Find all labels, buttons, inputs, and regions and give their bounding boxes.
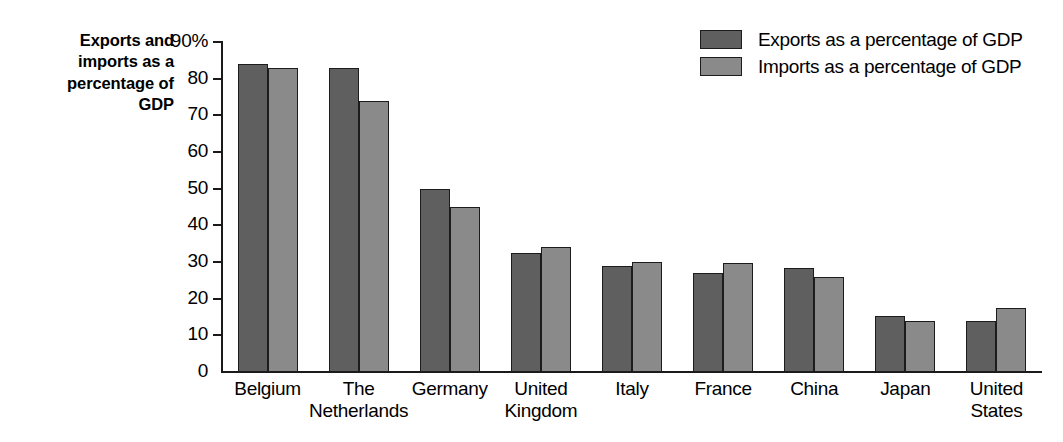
bar-exports [602, 266, 632, 372]
legend-item: Exports as a percentage of GDP [700, 26, 1023, 53]
bar-group [420, 42, 480, 372]
bar-group [602, 42, 662, 372]
axis-title-line-4: GDP [22, 94, 174, 115]
y-axis-tick-label: 90% [171, 31, 208, 50]
y-axis-tick-label: 0 [198, 361, 208, 380]
bar-imports [905, 321, 935, 372]
bar-exports [420, 189, 450, 372]
y-axis-tick-label: 30 [187, 251, 208, 270]
y-axis-tick-label: 40 [187, 214, 208, 233]
legend-item-label: Exports as a percentage of GDP [758, 30, 1023, 49]
bar-imports [996, 308, 1026, 372]
y-axis-tick-label: 50 [187, 178, 208, 197]
bar-group [511, 42, 571, 372]
y-axis-tick-label: 80 [187, 68, 208, 87]
bar-group [966, 42, 1026, 372]
y-axis-tick-mark [213, 78, 222, 80]
y-axis-tick-label: 60 [187, 141, 208, 160]
bar-imports [268, 68, 298, 372]
bar-imports [541, 247, 571, 372]
bar-group [238, 42, 298, 372]
y-axis-tick-mark [213, 334, 222, 336]
bar-exports [511, 253, 541, 372]
y-axis-tick-mark [213, 41, 222, 43]
x-axis-category-label: United States [939, 378, 1054, 422]
y-axis-tick-mark [213, 261, 222, 263]
bar-exports [329, 68, 359, 372]
bar-imports [723, 263, 753, 372]
legend-swatch-exports [700, 30, 742, 49]
y-axis-tick-label: 10 [187, 324, 208, 343]
axis-title-line-3: percentage of [22, 73, 174, 94]
y-axis-tick-mark [213, 114, 222, 116]
chart-axis-title: Exports and imports as a percentage of G… [22, 30, 174, 116]
bar-exports [693, 273, 723, 372]
y-axis-tick-label: 20 [187, 288, 208, 307]
y-axis-tick-mark [213, 224, 222, 226]
bar-group [784, 42, 844, 372]
bar-imports [814, 277, 844, 372]
axis-title-line-1: Exports and [22, 30, 174, 51]
bar-exports [784, 268, 814, 373]
y-axis-tick-label: 70 [187, 104, 208, 123]
y-axis-tick-mark [213, 298, 222, 300]
legend-item: Imports as a percentage of GDP [700, 53, 1023, 80]
plot-area [222, 42, 1042, 372]
y-axis-tick-mark [213, 151, 222, 153]
bar-imports [359, 101, 389, 372]
y-axis-tick-mark [213, 188, 222, 190]
bar-chart: Exports and imports as a percentage of G… [0, 0, 1063, 442]
bar-exports [875, 316, 905, 372]
bar-group [693, 42, 753, 372]
axis-title-line-2: imports as a [22, 51, 174, 72]
bar-imports [632, 262, 662, 372]
bar-exports [966, 321, 996, 372]
legend-item-label: Imports as a percentage of GDP [758, 57, 1021, 76]
legend-swatch-imports [700, 57, 742, 76]
bar-group [875, 42, 935, 372]
bar-imports [450, 207, 480, 372]
bar-group [329, 42, 389, 372]
bar-exports [238, 64, 268, 372]
chart-legend: Exports as a percentage of GDPImports as… [700, 26, 1023, 80]
